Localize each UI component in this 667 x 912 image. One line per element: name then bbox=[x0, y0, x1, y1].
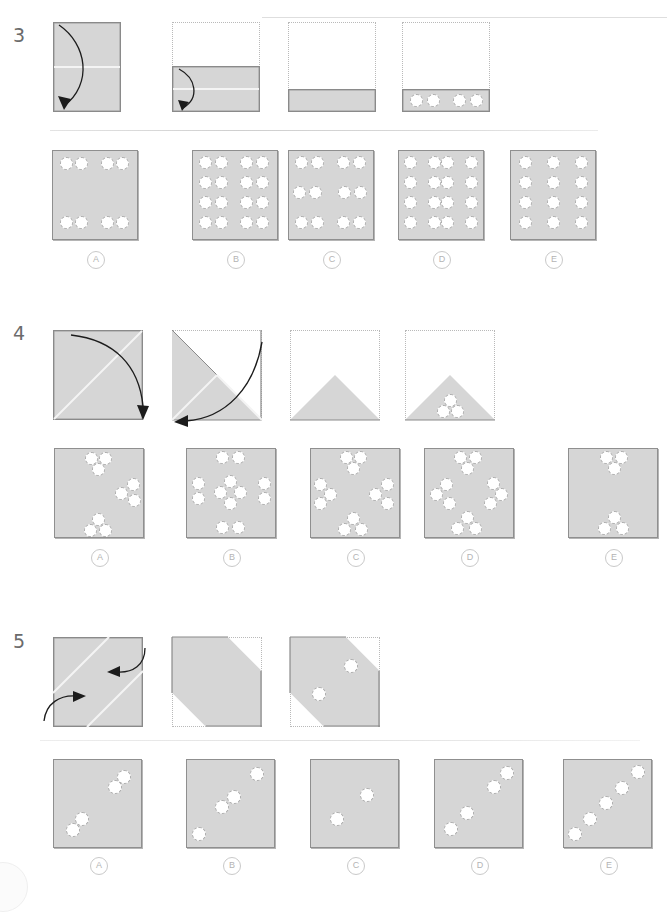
punched-hole bbox=[369, 488, 382, 501]
punched-hole bbox=[487, 780, 501, 794]
punched-hole bbox=[441, 196, 454, 209]
option-label-A: A bbox=[87, 251, 105, 269]
punched-hole bbox=[338, 523, 351, 536]
fold-arrow-down-icon bbox=[53, 22, 123, 114]
punched-hole bbox=[116, 216, 129, 229]
punched-hole bbox=[115, 487, 128, 500]
punched-hole bbox=[427, 94, 440, 107]
punched-hole bbox=[99, 524, 112, 537]
punched-hole bbox=[519, 156, 532, 169]
punched-hole bbox=[547, 196, 560, 209]
punched-hole bbox=[60, 157, 73, 170]
punched-hole bbox=[599, 796, 613, 810]
punched-hole bbox=[192, 477, 205, 490]
punched-hole bbox=[337, 216, 350, 229]
punched-hole bbox=[519, 216, 532, 229]
punched-hole bbox=[381, 478, 394, 491]
punched-hole bbox=[575, 156, 588, 169]
punched-hole bbox=[484, 497, 497, 510]
punched-hole bbox=[441, 176, 454, 189]
punched-hole bbox=[547, 156, 560, 169]
punched-hole bbox=[461, 462, 474, 475]
punched-hole bbox=[381, 497, 394, 510]
punched-hole bbox=[311, 216, 324, 229]
punched-hole bbox=[583, 812, 597, 826]
punched-hole bbox=[240, 196, 253, 209]
option-label-B: B bbox=[223, 857, 241, 875]
punched-hole bbox=[60, 216, 73, 229]
punched-hole bbox=[428, 216, 441, 229]
punched-hole bbox=[547, 216, 560, 229]
punched-hole bbox=[127, 478, 140, 491]
punched-hole bbox=[199, 216, 212, 229]
punched-hole bbox=[214, 486, 227, 499]
punched-hole bbox=[84, 524, 97, 537]
punched-hole bbox=[519, 176, 532, 189]
punched-hole bbox=[192, 492, 205, 505]
option-label-A: A bbox=[90, 857, 108, 875]
triangle-base-line bbox=[290, 375, 380, 421]
punched-hole bbox=[360, 788, 374, 802]
punched-hole bbox=[465, 196, 478, 209]
punched-hole bbox=[215, 156, 228, 169]
punched-hole bbox=[347, 462, 360, 475]
fold-arrow-left-icon bbox=[166, 336, 266, 428]
punched-hole bbox=[428, 196, 441, 209]
option-square[interactable] bbox=[310, 759, 399, 848]
punched-hole bbox=[240, 216, 253, 229]
fold-arrow-upper-icon bbox=[105, 645, 147, 679]
punched-hole bbox=[66, 823, 80, 837]
punched-hole bbox=[256, 156, 269, 169]
punched-hole bbox=[232, 451, 245, 464]
punched-hole bbox=[547, 176, 560, 189]
fold-arrow-diagonal-icon bbox=[53, 330, 151, 428]
punched-hole bbox=[215, 196, 228, 209]
option-label-E: E bbox=[605, 549, 623, 567]
punched-hole bbox=[404, 156, 417, 169]
option-label-D: D bbox=[471, 857, 489, 875]
punched-hole bbox=[258, 477, 271, 490]
ghost-outline bbox=[402, 22, 490, 90]
punched-hole bbox=[224, 475, 237, 488]
punched-hole bbox=[451, 522, 464, 535]
punched-hole bbox=[234, 486, 247, 499]
punched-hole bbox=[404, 216, 417, 229]
punched-hole bbox=[116, 157, 129, 170]
fold-arrow-lower-icon bbox=[42, 685, 88, 723]
punched-hole bbox=[355, 523, 368, 536]
option-label-C: C bbox=[347, 857, 365, 875]
fold-arrow-down-icon bbox=[174, 66, 218, 114]
punched-hole bbox=[250, 767, 264, 781]
page-corner-mark bbox=[0, 862, 28, 912]
punched-hole bbox=[293, 186, 306, 199]
option-label-B: B bbox=[227, 251, 245, 269]
punched-hole bbox=[428, 156, 441, 169]
option-label-A: A bbox=[91, 549, 109, 567]
punched-hole bbox=[519, 196, 532, 209]
punched-hole bbox=[215, 216, 228, 229]
punched-hole bbox=[470, 94, 483, 107]
punched-hole bbox=[465, 176, 478, 189]
punched-hole bbox=[469, 522, 482, 535]
punched-hole bbox=[330, 812, 344, 826]
punched-hole bbox=[575, 176, 588, 189]
punched-hole bbox=[608, 462, 621, 475]
ghost-outline bbox=[288, 22, 376, 90]
punched-hole bbox=[465, 216, 478, 229]
punched-hole bbox=[353, 156, 366, 169]
punched-hole bbox=[314, 497, 327, 510]
punched-hole bbox=[441, 216, 454, 229]
punched-hole bbox=[101, 216, 114, 229]
punched-hole bbox=[128, 494, 141, 507]
punched-hole bbox=[353, 216, 366, 229]
punched-hole bbox=[451, 405, 464, 418]
punched-hole bbox=[256, 216, 269, 229]
punched-hole bbox=[215, 800, 229, 814]
punched-hole bbox=[199, 156, 212, 169]
punched-hole bbox=[344, 659, 358, 673]
punched-hole bbox=[404, 176, 417, 189]
punched-hole bbox=[224, 497, 237, 510]
punched-hole bbox=[199, 196, 212, 209]
punched-hole bbox=[108, 780, 122, 794]
punched-hole bbox=[616, 522, 629, 535]
